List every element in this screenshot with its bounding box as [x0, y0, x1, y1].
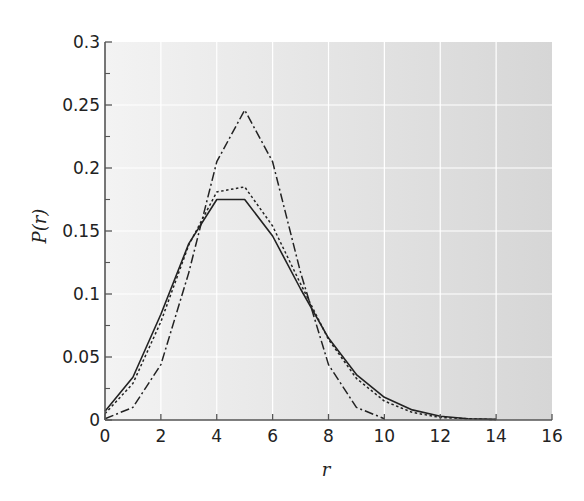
x-axis-title: r	[322, 459, 332, 480]
x-tick-label: 10	[374, 426, 396, 446]
line-chart: 0246810121416 00.050.10.150.20.250.3 r P…	[0, 0, 584, 501]
x-tick-label: 12	[429, 426, 451, 446]
y-tick-label: 0.15	[62, 221, 100, 241]
x-tick-label: 4	[211, 426, 222, 446]
y-tick-label: 0.3	[73, 32, 100, 52]
y-axis-title: P(r)	[29, 209, 50, 245]
y-tick-label: 0.25	[62, 95, 100, 115]
x-tick-label: 0	[100, 426, 111, 446]
y-tick-labels: 00.050.10.150.20.250.3	[62, 32, 100, 430]
x-tick-label: 8	[323, 426, 334, 446]
x-tick-label: 6	[267, 426, 278, 446]
y-tick-label: 0.05	[62, 347, 100, 367]
x-tick-label: 16	[541, 426, 563, 446]
x-tick-labels: 0246810121416	[100, 426, 563, 446]
y-tick-label: 0.2	[73, 158, 100, 178]
x-tick-label: 2	[155, 426, 166, 446]
x-tick-label: 14	[485, 426, 507, 446]
y-tick-label: 0.1	[73, 284, 100, 304]
y-tick-label: 0	[89, 410, 100, 430]
